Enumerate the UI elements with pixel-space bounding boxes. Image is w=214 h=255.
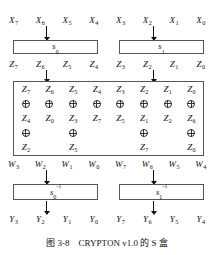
xor-expression-block: Z7 Z6 Z5 Z4 Z3 Z2 Z1 Z0 Z4 Z0 Z3 Z7 Z5 Z… <box>13 81 204 156</box>
label-w0: W0 <box>88 160 99 169</box>
label-z1: Z1 <box>170 60 178 69</box>
label-z7: Z7 <box>9 60 17 69</box>
xor-icon-r1c1 <box>45 100 53 108</box>
xor-cell-r4c2: Z5 <box>69 143 77 152</box>
label-x6: X6 <box>36 16 45 25</box>
xor-icon-r1c6 <box>164 100 172 108</box>
xor-cell-r0c4: Z3 <box>116 85 124 94</box>
xor-icon-r1c4 <box>116 100 124 108</box>
xor-icon-r3c7 <box>187 129 195 137</box>
xor-icon-r1c7 <box>187 100 195 108</box>
xor-cell-r2c4: Z5 <box>116 114 124 123</box>
sbox-s0-inverse[interactable]: s0-1 <box>13 184 98 200</box>
z-output-row: Z7 Z6 Z5 Z4 Z3 Z2 Z1 Z0 <box>0 58 214 70</box>
xor-cell-r0c2: Z5 <box>69 85 77 94</box>
figure-caption: 图 3-8 CRYPTON v1.0 的 S 盒 <box>0 236 214 249</box>
label-x2: X2 <box>143 16 152 25</box>
xor-cell-r2c3: Z7 <box>93 114 101 123</box>
label-x0: X0 <box>196 16 205 25</box>
label-x1: X1 <box>170 16 179 25</box>
xor-icon-r1c5 <box>140 100 148 108</box>
label-z3: Z3 <box>116 60 124 69</box>
output-y-row: Y3 Y2 Y1 Y0 Y7 Y6 Y5 Y4 <box>0 213 214 225</box>
xor-cell-r2c7: Z6 <box>187 114 195 123</box>
label-z4: Z4 <box>90 60 98 69</box>
xor-grid: Z7 Z6 Z5 Z4 Z3 Z2 Z1 Z0 Z4 Z0 Z3 Z7 Z5 Z… <box>14 82 203 155</box>
xor-icon-r1c3 <box>93 100 101 108</box>
label-x7: X7 <box>9 16 18 25</box>
xor-cell-r0c7: Z0 <box>187 85 195 94</box>
label-x4: X4 <box>89 16 98 25</box>
arrow-s0-inv-to-y <box>46 201 47 211</box>
label-w6: W6 <box>142 160 153 169</box>
xor-cell-r0c3: Z4 <box>93 85 101 94</box>
label-x3: X3 <box>116 16 125 25</box>
arrow-s1-inv-to-y <box>153 201 154 211</box>
arrow-x-to-s1 <box>153 26 154 37</box>
arrow-z-to-xor-left <box>46 70 47 79</box>
label-z5: Z5 <box>63 60 71 69</box>
label-y4: Y4 <box>197 215 205 224</box>
arrow-z-to-xor-right <box>153 70 154 79</box>
xor-cell-r0c6: Z1 <box>164 85 172 94</box>
sbox-s1-inverse-label: s1-1 <box>156 186 167 199</box>
label-y6: Y6 <box>143 215 151 224</box>
xor-cell-r0c0: Z7 <box>22 85 30 94</box>
xor-cell-r0c5: Z2 <box>140 85 148 94</box>
label-w5: W5 <box>169 160 180 169</box>
arrow-x-to-s0 <box>46 26 47 37</box>
sbox-s0[interactable]: s0 <box>13 40 98 54</box>
label-w4: W4 <box>195 160 206 169</box>
label-y3: Y3 <box>9 215 17 224</box>
sbox-s0-label: s0 <box>52 41 58 53</box>
xor-cell-r2c2: Z3 <box>69 114 77 123</box>
label-y2: Y2 <box>36 215 44 224</box>
label-z0: Z0 <box>197 60 205 69</box>
label-y0: Y0 <box>90 215 98 224</box>
label-y1: Y1 <box>63 215 71 224</box>
xor-cell-r2c0: Z4 <box>22 114 30 123</box>
xor-cell-r2c6: Z2 <box>164 114 172 123</box>
figure-crypton-sbox: X7 X6 X5 X4 X3 X2 X1 X0 s0 s1 Z7 Z6 Z5 Z… <box>0 0 214 255</box>
xor-icon-r1c0 <box>22 100 30 108</box>
xor-cell-r4c7: Z0 <box>187 143 195 152</box>
xor-icon-r3c5 <box>140 129 148 137</box>
sbox-s0-inverse-label: s0-1 <box>50 186 61 199</box>
w-output-row: W3 W2 W1 W0 W7 W6 W5 W4 <box>0 158 214 170</box>
label-x5: X5 <box>63 16 72 25</box>
xor-icon-r1c2 <box>69 100 77 108</box>
xor-cell-r2c1: Z0 <box>45 114 53 123</box>
label-w2: W2 <box>35 160 46 169</box>
xor-cell-r0c1: Z6 <box>45 85 53 94</box>
sbox-s1[interactable]: s1 <box>119 40 204 54</box>
sbox-s1-inverse[interactable]: s1-1 <box>119 184 204 200</box>
xor-cell-r4c0: Z2 <box>22 143 30 152</box>
sbox-s1-label: s1 <box>158 41 164 53</box>
label-w3: W3 <box>8 160 19 169</box>
xor-icon-r3c0 <box>22 129 30 137</box>
label-y5: Y5 <box>170 215 178 224</box>
xor-icon-r3c2 <box>69 129 77 137</box>
label-z2: Z2 <box>143 60 151 69</box>
input-x-row: X7 X6 X5 X4 X3 X2 X1 X0 <box>0 14 214 26</box>
arrow-w-to-s1-inv <box>153 170 154 181</box>
label-y7: Y7 <box>116 215 124 224</box>
label-w7: W7 <box>115 160 126 169</box>
label-w1: W1 <box>62 160 73 169</box>
xor-cell-r2c5: Z1 <box>140 114 148 123</box>
label-z6: Z6 <box>36 60 44 69</box>
arrow-w-to-s0-inv <box>46 170 47 181</box>
xor-cell-r4c5: Z7 <box>140 143 148 152</box>
